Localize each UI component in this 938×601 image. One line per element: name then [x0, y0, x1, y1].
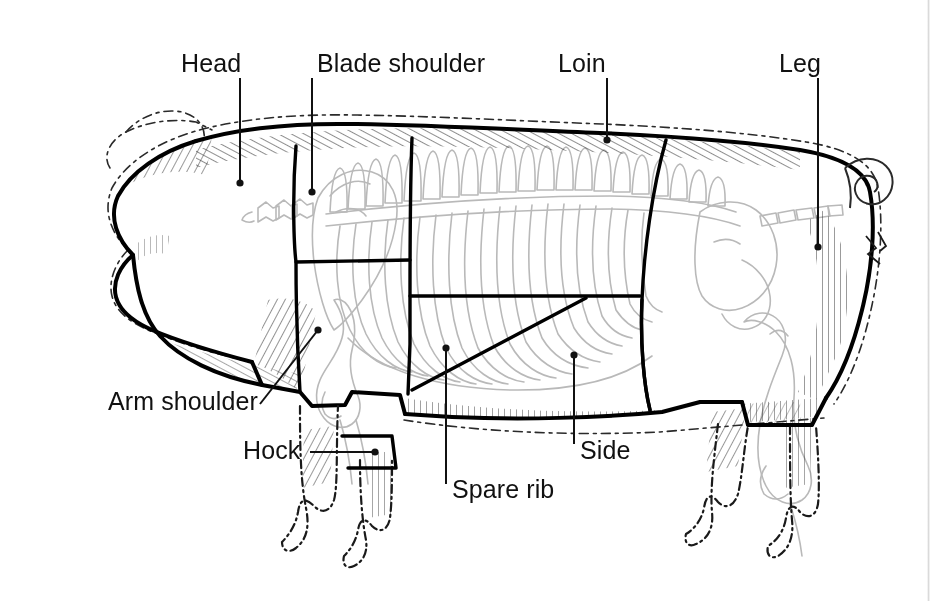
label-text-leg: Leg	[779, 49, 821, 77]
label-text-spare-rib: Spare rib	[452, 475, 554, 503]
thoracic-spine	[326, 146, 740, 226]
cut-spare-side-diagonal	[412, 298, 586, 390]
cut-arm-shoulder	[296, 260, 410, 262]
cut-side-rear	[641, 300, 650, 410]
label-text-loin: Loin	[558, 49, 606, 77]
label-side[interactable]: Side	[570, 351, 630, 464]
label-text-head: Head	[181, 49, 241, 77]
cervical-vertebrae	[242, 199, 313, 222]
leader-dot-leg	[814, 243, 821, 250]
leader-dot-head	[236, 179, 243, 186]
cut-blade-rear	[408, 138, 412, 394]
pelvis-bone	[695, 202, 777, 329]
leader-dot-blade-shoulder	[308, 188, 315, 195]
scapula-bone	[312, 170, 397, 330]
label-spare-rib[interactable]: Spare rib	[442, 344, 554, 503]
leader-dot-side	[570, 351, 577, 358]
label-text-arm-shoulder: Arm shoulder	[108, 387, 258, 415]
diagram-canvas: Head Blade shoulder Loin Leg Arm sho	[0, 0, 938, 601]
pork-cuts-diagram: Head Blade shoulder Loin Leg Arm sho	[0, 0, 938, 601]
label-text-side: Side	[580, 436, 630, 464]
label-loin[interactable]: Loin	[558, 49, 611, 144]
leader-dot-loin	[603, 136, 610, 143]
leader-dot-arm-shoulder	[314, 326, 321, 333]
leader-dot-spare-rib	[442, 344, 449, 351]
rear-spur-marks	[866, 232, 886, 264]
right-edge-artifact	[927, 0, 930, 601]
leader-dot-hock	[371, 448, 378, 455]
label-text-hock: Hock	[243, 436, 301, 464]
label-text-blade-shoulder: Blade shoulder	[317, 49, 485, 77]
